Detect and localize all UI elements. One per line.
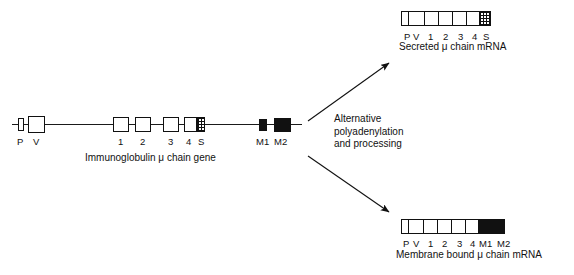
gene-label-s: S	[198, 136, 205, 147]
secreted-mrna-bar	[401, 11, 491, 26]
membrane-mrna-segment-v	[409, 220, 424, 233]
gene-exon-v	[28, 116, 45, 133]
gene-label-m1: M1	[256, 136, 270, 147]
process-line-3: and processing	[334, 138, 404, 151]
gene-label-p: P	[17, 136, 24, 147]
membrane-label-m1: M1	[479, 238, 493, 249]
gene-label-4: 4	[186, 136, 191, 147]
gene-exon-1	[113, 117, 129, 132]
secreted-mrna-segment-p	[402, 12, 409, 25]
secreted-mrna-segment-v	[409, 12, 425, 25]
gene-label-m2: M2	[274, 136, 288, 147]
secreted-mrna-segment-3	[453, 12, 467, 25]
membrane-mrna-segment-2	[438, 220, 452, 233]
membrane-label-2: 2	[442, 238, 447, 249]
membrane-label-4: 4	[470, 238, 475, 249]
membrane-mrna-segment-m1	[479, 220, 489, 233]
membrane-mrna-segment-p	[402, 220, 409, 233]
process-line-2: polyadenylation	[334, 126, 404, 139]
membrane-mrna-segment-3	[452, 220, 466, 233]
membrane-mrna-bar	[401, 219, 505, 234]
membrane-label-1: 1	[428, 238, 433, 249]
gene-exon-3	[163, 117, 179, 132]
membrane-label-3: 3	[457, 238, 462, 249]
secreted-mrna-caption: Secreted μ chain mRNA	[399, 41, 506, 54]
gene-exon-s	[197, 117, 205, 132]
membrane-label-p: P	[403, 238, 410, 249]
mu-chain-gene-figure: PV1234SM1M2 Immunoglobulin μ chain gene …	[0, 0, 574, 275]
secreted-mrna-segment-1	[425, 12, 439, 25]
process-line-1: Alternative	[334, 113, 404, 126]
gene-exon-4	[184, 117, 197, 132]
membrane-mrna-caption: Membrane bound μ chain mRNA	[396, 249, 542, 262]
gene-label-2: 2	[140, 136, 145, 147]
gene-label-v: V	[33, 136, 40, 147]
membrane-label-v: V	[413, 238, 420, 249]
gene-exon-m2	[274, 118, 291, 132]
membrane-label-m2: M2	[497, 238, 511, 249]
secreted-mrna-segment-s	[480, 12, 490, 25]
membrane-mrna-segment-4	[466, 220, 479, 233]
process-label: Alternative polyadenylation and processi…	[334, 113, 404, 151]
secreted-mrna-segment-4	[467, 12, 480, 25]
membrane-mrna-segment-m2	[489, 220, 504, 233]
membrane-mrna-segment-1	[424, 220, 438, 233]
gene-exon-2	[135, 117, 151, 132]
gene-caption: Immunoglobulin μ chain gene	[85, 152, 216, 165]
secreted-mrna-segment-2	[439, 12, 453, 25]
gene-exon-m1	[259, 119, 267, 131]
gene-label-3: 3	[168, 136, 173, 147]
gene-label-1: 1	[118, 136, 123, 147]
arrow-to-membrane	[305, 152, 405, 222]
gene-exon-p	[18, 118, 24, 131]
